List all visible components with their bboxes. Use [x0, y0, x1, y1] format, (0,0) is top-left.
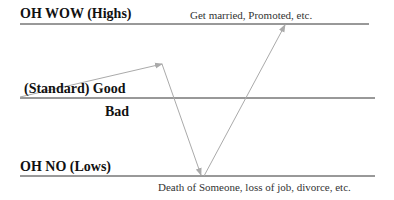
low-note: Death of Someone, loss of job, divorce, … — [158, 181, 351, 193]
arrow-rise-2 — [204, 25, 285, 176]
high-label: OH WOW (Highs) — [20, 6, 132, 22]
bad-label: Bad — [105, 104, 129, 120]
standard-label: (Standard) Good — [24, 81, 126, 97]
high-note: Get married, Promoted, etc. — [190, 9, 312, 21]
arrow-fall — [162, 64, 201, 175]
low-label: OH NO (Lows) — [20, 159, 111, 175]
